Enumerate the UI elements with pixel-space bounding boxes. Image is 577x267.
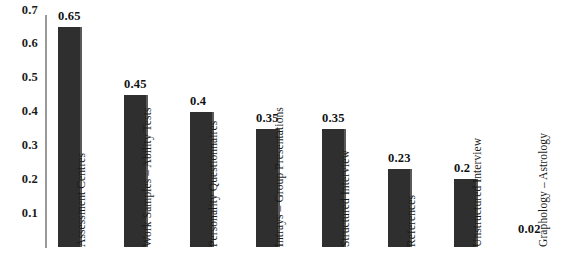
bar-chart: 0.10.20.30.40.50.60.7 0.65Assessment Cen…	[0, 0, 577, 267]
x-axis-category-label: Intrays – Group Presentations	[273, 107, 285, 247]
y-axis-tick: 0.7	[0, 4, 38, 17]
y-axis-tick: 0.2	[0, 173, 38, 186]
x-axis-category-label: Graphology – Astrology	[537, 133, 549, 247]
x-axis-category-label: Unstructured Interview	[471, 138, 483, 247]
bar-value-label: 0.4	[190, 95, 206, 108]
x-axis-category-label: Work Samples – Ability Tests	[141, 108, 153, 248]
y-axis-tick-label: 0.2	[4, 173, 38, 186]
y-axis-tick: 0.4	[0, 105, 38, 118]
x-axis-category-label: Assessment Centres	[75, 153, 87, 247]
y-axis-tick-label: 0.1	[4, 207, 38, 220]
y-axis-tick: 0.5	[0, 71, 38, 84]
y-axis-tick: 0.6	[0, 37, 38, 50]
y-axis-tick: 0.1	[0, 207, 38, 220]
bar-value-label: 0.23	[388, 152, 411, 165]
y-axis-line	[45, 15, 47, 248]
bar-value-label: 0.45	[124, 78, 147, 91]
x-axis-category-label: References	[405, 195, 417, 247]
y-axis-tick: 0.3	[0, 139, 38, 152]
x-axis-category-label: Personality Questionnaires	[207, 121, 219, 247]
x-axis-category-label: Structured Interview	[339, 150, 351, 247]
y-axis-tick-label: 0.3	[4, 139, 38, 152]
y-axis-tick-label: 0.7	[4, 4, 38, 17]
y-axis-tick-label: 0.4	[4, 105, 38, 118]
bar-value-label: 0.2	[454, 162, 470, 175]
y-axis-tick-label: 0.6	[4, 37, 38, 50]
bar-value-label: 0.35	[322, 112, 345, 125]
y-axis-tick-label: 0.5	[4, 71, 38, 84]
bar-value-label: 0.65	[58, 10, 81, 23]
